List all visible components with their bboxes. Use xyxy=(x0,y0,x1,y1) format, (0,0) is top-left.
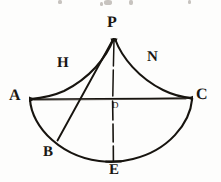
point-label-P: P xyxy=(107,15,117,31)
point-label-B: B xyxy=(43,145,53,160)
vertex-C-wedge xyxy=(187,96,193,101)
vertex-A-wedge xyxy=(29,97,36,103)
point-label-C: C xyxy=(196,87,208,103)
point-label-A: A xyxy=(9,88,21,104)
axis-P-D xyxy=(113,40,114,96)
axis-D-E xyxy=(113,101,114,161)
curve-P-C xyxy=(115,39,192,98)
geometry-figure: P H N A C D B E xyxy=(0,0,221,182)
point-label-D: D xyxy=(112,101,119,110)
curve-label-N: N xyxy=(147,50,158,65)
point-label-E: E xyxy=(109,163,119,178)
apex-blot xyxy=(111,39,118,42)
curve-label-H: H xyxy=(57,56,69,71)
curve-P-A xyxy=(31,39,114,99)
